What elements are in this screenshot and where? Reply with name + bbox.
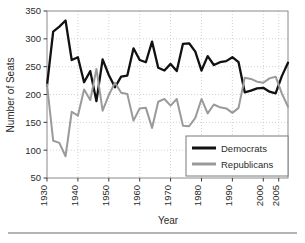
seats-line-chart: 50100150200250300350 1930194019501960197… <box>0 0 305 243</box>
y-tick-label-50: 50 <box>30 172 41 183</box>
y-tick-label-300: 300 <box>25 33 41 44</box>
x-tick-label-1940: 1940 <box>69 185 80 206</box>
x-tick-label-1990: 1990 <box>223 185 234 206</box>
y-axis-title: Number of Seats <box>5 57 16 132</box>
legend-label-republicans: Republicans <box>221 159 274 170</box>
x-tick-label-1970: 1970 <box>162 185 173 206</box>
y-tick-label-150: 150 <box>25 117 41 128</box>
y-tick-label-100: 100 <box>25 145 41 156</box>
x-tick-label-1980: 1980 <box>192 185 203 206</box>
chart-figure: 50100150200250300350 1930194019501960197… <box>0 0 305 243</box>
x-tick-label-1950: 1950 <box>100 185 111 206</box>
x-tick-label-2005: 2005 <box>270 185 281 206</box>
x-tick-label-2000: 2000 <box>254 185 265 206</box>
y-tick-label-200: 200 <box>25 89 41 100</box>
legend-label-democrats: Democrats <box>221 143 267 154</box>
x-axis-title: Year <box>158 215 179 226</box>
y-tick-label-250: 250 <box>25 61 41 72</box>
x-tick-label-1960: 1960 <box>131 185 142 206</box>
chart-legend: Democrats Republicans <box>186 136 288 176</box>
x-tick-label-1930: 1930 <box>38 185 49 206</box>
y-tick-label-350: 350 <box>25 5 41 16</box>
